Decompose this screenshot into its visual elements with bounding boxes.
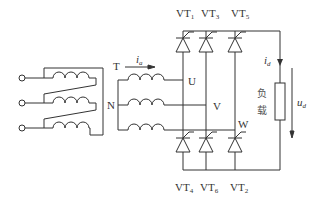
label-ia-sub: a bbox=[139, 59, 143, 67]
label-current-ia: ia bbox=[136, 54, 143, 67]
label-voltage-ud: ud bbox=[297, 97, 306, 110]
label-neutral: N bbox=[107, 100, 115, 111]
label-transformer: T bbox=[113, 61, 120, 72]
primary-windings bbox=[44, 68, 103, 135]
label-vt1: VT1 bbox=[176, 8, 194, 21]
voltage-arrow-ud bbox=[290, 68, 294, 138]
label-load-1: 负 bbox=[257, 89, 267, 99]
load-resistor bbox=[275, 83, 285, 120]
thyristor-vt3 bbox=[199, 32, 217, 52]
label-vt5-sub: 5 bbox=[246, 13, 250, 21]
label-vt6: VT6 bbox=[200, 182, 218, 195]
label-vt2-sub: 2 bbox=[245, 187, 249, 195]
label-vt1-sub: 1 bbox=[191, 13, 195, 21]
label-phase-v: V bbox=[213, 101, 221, 112]
label-phase-u: U bbox=[188, 76, 196, 87]
label-vt4-sub: 4 bbox=[190, 187, 194, 195]
thyristor-vt1 bbox=[176, 32, 194, 52]
label-id-sub: d bbox=[267, 60, 271, 68]
current-arrow-id bbox=[277, 59, 283, 66]
label-vt5-main: VT bbox=[231, 7, 246, 19]
label-vt5: VT5 bbox=[231, 8, 249, 21]
thyristor-vt4 bbox=[176, 132, 194, 152]
bridge-rectifier-diagram bbox=[0, 0, 321, 203]
thyristor-vt5 bbox=[228, 32, 246, 52]
thyristor-vt6 bbox=[199, 132, 217, 152]
label-vt4: VT4 bbox=[175, 182, 193, 195]
label-vt3-main: VT bbox=[201, 7, 216, 19]
label-current-id: id bbox=[264, 55, 271, 68]
label-vt1-main: VT bbox=[176, 7, 191, 19]
label-phase-w: W bbox=[238, 119, 248, 130]
label-vt6-main: VT bbox=[200, 181, 215, 193]
label-vt6-sub: 6 bbox=[215, 187, 219, 195]
thyristor-vt2 bbox=[228, 132, 246, 152]
label-ud-sub: d bbox=[303, 102, 307, 110]
label-vt2: VT2 bbox=[230, 182, 248, 195]
input-terminals bbox=[19, 75, 44, 131]
label-vt3: VT3 bbox=[201, 8, 219, 21]
label-load-2: 载 bbox=[257, 106, 267, 116]
label-vt2-main: VT bbox=[230, 181, 245, 193]
label-vt4-main: VT bbox=[175, 181, 190, 193]
label-vt3-sub: 3 bbox=[216, 13, 220, 21]
